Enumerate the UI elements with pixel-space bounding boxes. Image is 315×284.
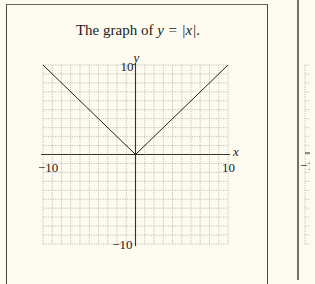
second-panel-partial (305, 60, 315, 245)
y-min-tick-label: −10 (112, 237, 132, 252)
y-max-tick-label: 10 (121, 59, 134, 74)
x-min-tick-label: −10 (38, 160, 58, 175)
x-axis-label: x (232, 144, 239, 159)
x-max-tick-label: 10 (222, 160, 235, 175)
